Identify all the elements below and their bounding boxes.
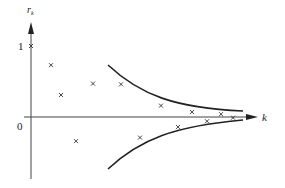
data-point-marker <box>176 125 180 129</box>
data-points <box>29 44 235 143</box>
y-tick-zero: 0 <box>17 120 23 132</box>
x-axis-label: k <box>262 111 268 123</box>
data-point-marker <box>219 112 223 116</box>
data-point-marker <box>159 104 163 108</box>
data-point-marker <box>138 136 142 140</box>
chart: rk 1 0 k <box>0 0 285 188</box>
y-tick-one: 1 <box>18 40 24 52</box>
data-point-marker <box>59 93 63 97</box>
y-axis-label: rk <box>27 4 34 16</box>
data-point-marker <box>74 139 78 143</box>
data-point-marker <box>91 82 95 86</box>
data-point-marker <box>49 63 53 67</box>
data-point-marker <box>231 116 235 120</box>
x-axis-arrow-icon <box>246 114 258 120</box>
data-point-marker <box>119 82 123 86</box>
lower-bound-curve <box>108 120 243 169</box>
y-axis-arrow-icon <box>28 22 34 34</box>
data-point-marker <box>190 110 194 114</box>
data-point-marker <box>205 119 209 123</box>
upper-bound-curve <box>108 65 243 111</box>
